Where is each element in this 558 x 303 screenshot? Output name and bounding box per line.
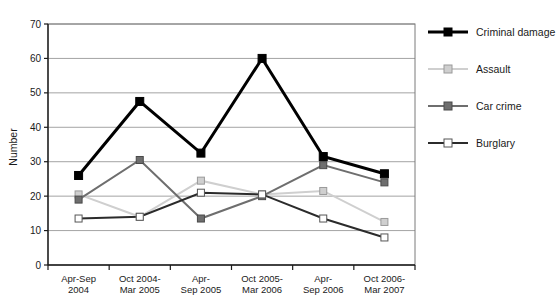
legend-item-label: Burglary (476, 137, 516, 149)
x-tick-label: Oct 2005- (241, 273, 283, 284)
gridlines-group (48, 24, 415, 231)
y-axis-group: 010203040506070 (30, 19, 48, 271)
series-lines-group (79, 58, 385, 237)
data-point-marker (380, 170, 388, 178)
data-point-marker (320, 215, 327, 222)
data-point-marker (136, 213, 143, 220)
y-tick-label: 40 (30, 122, 42, 133)
series-line (79, 181, 385, 222)
x-axis-group (48, 265, 415, 270)
x-tick-label: Apr- (314, 273, 332, 284)
y-tick-label: 0 (35, 260, 41, 271)
data-point-marker (259, 191, 266, 198)
crime-trend-line-chart: 010203040506070 Apr-Sep2004Oct 2004-Mar … (0, 0, 558, 303)
x-tick-label: Mar 2007 (364, 284, 404, 295)
x-tick-label: Sep 2005 (181, 284, 222, 295)
y-tick-label: 10 (30, 225, 42, 236)
data-point-marker (197, 189, 204, 196)
x-tick-label: Mar 2005 (120, 284, 160, 295)
series-markers-group (75, 54, 389, 241)
x-tick-label: Sep 2006 (303, 284, 344, 295)
y-tick-label: 60 (30, 53, 42, 64)
legend-group: Criminal damageAssaultCar crimeBurglary (428, 26, 556, 149)
y-tick-label: 20 (30, 191, 42, 202)
y-tick-label: 70 (30, 19, 42, 30)
data-point-marker (197, 149, 205, 157)
x-tick-label: Mar 2006 (242, 284, 282, 295)
data-point-marker (197, 177, 204, 184)
legend-marker-swatch (444, 28, 452, 36)
series-line (79, 160, 385, 219)
data-point-marker (136, 97, 144, 105)
y-tick-label: 30 (30, 156, 42, 167)
data-point-marker (381, 179, 388, 186)
data-point-marker (75, 215, 82, 222)
legend-item-label: Assault (476, 63, 511, 75)
y-axis-title: Number (7, 128, 19, 166)
data-point-marker (258, 54, 266, 62)
y-tick-label: 50 (30, 87, 42, 98)
x-tick-label: Apr- (192, 273, 210, 284)
data-point-marker (136, 156, 143, 163)
x-tick-label: Oct 2006- (364, 273, 406, 284)
data-point-marker (381, 234, 388, 241)
legend-item-label: Criminal damage (476, 26, 556, 38)
data-point-marker (320, 187, 327, 194)
legend-marker-swatch (444, 139, 452, 147)
data-point-marker (75, 196, 82, 203)
data-point-marker (320, 162, 327, 169)
data-point-marker (75, 171, 83, 179)
chart-canvas: 010203040506070 Apr-Sep2004Oct 2004-Mar … (0, 0, 558, 303)
legend-item-label: Car crime (476, 100, 522, 112)
series-line (79, 58, 385, 175)
legend-marker-swatch (444, 65, 452, 73)
data-point-marker (197, 215, 204, 222)
legend-marker-swatch (444, 102, 452, 110)
x-tick-label: Oct 2004- (119, 273, 161, 284)
x-tick-label: Apr-Sep (61, 273, 96, 284)
x-tick-label: 2004 (68, 284, 89, 295)
data-point-marker (319, 153, 327, 161)
data-point-marker (381, 218, 388, 225)
x-axis-labels-group: Apr-Sep2004Oct 2004-Mar 2005Apr-Sep 2005… (61, 273, 405, 295)
